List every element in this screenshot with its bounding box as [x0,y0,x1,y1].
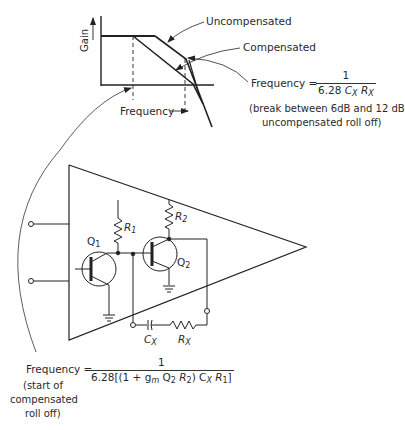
compensated-label: Compensated [243,42,316,53]
q2-label: Q2 [177,257,190,270]
leader-uncompensated [168,22,204,42]
q1-label: Q1 [87,236,100,249]
leader-break-frequency [188,58,248,82]
rx-label: RX [178,334,191,347]
input-terminal-2 [29,279,34,284]
resistor-r2 [165,200,173,239]
cx-terminal [131,323,136,328]
r1-label: R1 [124,222,136,235]
break-frequency-prefix: Frequency = [251,78,317,89]
break-frequency-note-1: (break between 6dB and 12 dB [249,104,405,114]
input-terminal-1 [29,222,34,227]
start-frequency-denominator: 6.28[(1 + gm Q2 R2) CX R1] [89,370,234,386]
break-frequency-numerator: 1 [341,70,352,83]
frequency-axis-label: Frequency [120,106,174,117]
amplifier-inputs [29,222,70,284]
resistor-r1 [114,200,122,253]
break-frequency-note-2: uncompensated roll off) [262,118,381,128]
feedback-terminal [205,309,210,314]
leader-start-compensated [18,88,131,352]
start-note-2: compensated [10,395,78,405]
transistor-q1 [75,252,118,321]
break-frequency-denominator: 6.28 CX RX [316,83,376,99]
r2-label: R2 [175,211,187,224]
cx-label: CX [144,334,157,347]
start-note-3: roll off) [25,409,61,419]
start-frequency-numerator: 1 [156,357,167,370]
transistor-q2 [142,237,177,292]
gain-axis-label: Gain [80,29,90,52]
uncompensated-label: Uncompensated [206,16,292,27]
node-1 [116,251,120,255]
start-frequency-fraction: 1 6.28[(1 + gm Q2 R2) CX R1] [89,357,234,385]
start-frequency-prefix: Frequency = [26,364,92,375]
break-frequency-fraction: 1 6.28 CX RX [316,70,376,98]
resistor-rx [170,321,196,329]
start-note-1: (start of [23,381,63,391]
